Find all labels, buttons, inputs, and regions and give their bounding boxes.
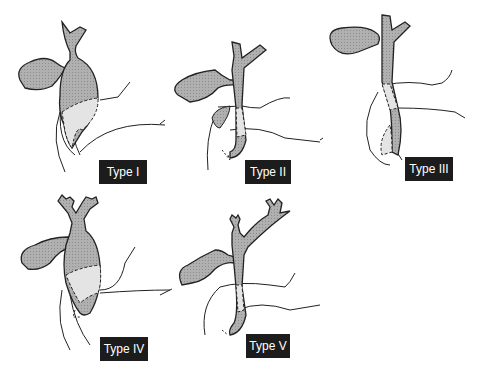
type-5-figure [160, 199, 320, 335]
duct-shape [230, 199, 291, 335]
type-4-figure [21, 195, 170, 350]
gallbladder-shape [180, 250, 235, 285]
diagram-canvas [0, 0, 484, 372]
type-3-figure [320, 15, 465, 165]
type-3-label: Type III [405, 157, 453, 181]
gallbladder-shape [175, 70, 238, 102]
type-5-label: Type V [246, 334, 290, 358]
type-2-figure [160, 42, 320, 170]
duct-shape [230, 42, 266, 158]
type-1-figure [19, 22, 165, 172]
type-2-label: Type II [245, 160, 291, 184]
type-4-label: Type IV [100, 337, 148, 361]
diverticulum-shape [212, 106, 230, 128]
gallbladder-shape [330, 27, 379, 54]
type-1-label: Type I [99, 160, 147, 184]
